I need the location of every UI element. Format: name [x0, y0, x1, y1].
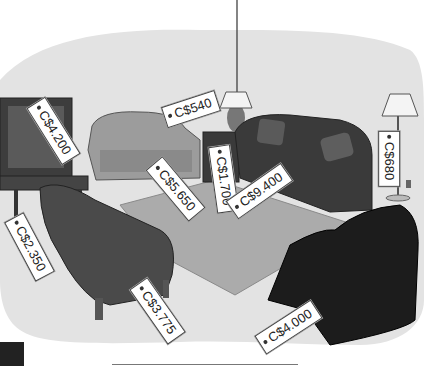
corner-block — [0, 342, 24, 366]
wall-outlet — [406, 180, 411, 188]
table-lamp-shade — [220, 92, 252, 108]
bottom-divider — [112, 364, 298, 365]
sofa-cushion-left — [256, 118, 285, 145]
price-tag-floor-lamp: C$680 — [378, 131, 400, 187]
living-room-illustration — [0, 0, 424, 366]
